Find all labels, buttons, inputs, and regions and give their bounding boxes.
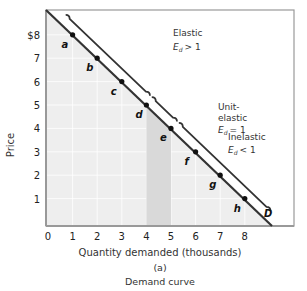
y-tick-6: 6 (34, 77, 40, 88)
y-tick-4: 4 (34, 123, 40, 134)
point-h (242, 196, 247, 201)
inelastic-eq: Ed< 1 (228, 145, 256, 156)
y-tick-1: 1 (34, 194, 40, 205)
x-tick-3: 3 (119, 231, 125, 242)
point-a (70, 32, 75, 37)
y-tick-2: 2 (34, 170, 40, 181)
y-tick-8: $8 (27, 30, 40, 41)
y-tick-3: 3 (34, 147, 40, 158)
unit-elastic-label-1: Unit- (218, 102, 240, 112)
x-tick-4: 4 (143, 231, 149, 242)
point-label-b: b (86, 62, 93, 73)
point-label-g: g (209, 179, 216, 190)
x-tick-8: 8 (242, 231, 248, 242)
chart-caption: Demand curve (125, 276, 195, 287)
x-axis-label: Quantity demanded (thousands) (79, 247, 242, 258)
x-tick-1: 1 (69, 231, 75, 242)
point-label-c: c (111, 86, 117, 97)
x-tick-5: 5 (168, 231, 174, 242)
x-tick-7: 7 (217, 231, 223, 242)
elastic-label: Elastic (173, 28, 202, 38)
point-b (95, 56, 100, 61)
point-label-e: e (160, 132, 167, 143)
y-tick-7: 7 (34, 53, 40, 64)
point-e (168, 126, 173, 131)
unit-elastic-label-2: elastic (218, 113, 247, 123)
curve-label-D: D (264, 208, 272, 219)
x-tick-0: 0 (45, 231, 51, 242)
point-label-h: h (234, 203, 241, 214)
demand-curve-chart: abcdefgh 0123456781234567$8 Elastic Ed> … (0, 0, 307, 291)
panel-label: (a) (153, 262, 166, 273)
point-d (144, 102, 149, 107)
point-label-a: a (62, 39, 69, 50)
inelastic-label: Inelastic (228, 132, 266, 142)
x-tick-2: 2 (94, 231, 100, 242)
point-label-d: d (135, 109, 143, 120)
point-c (119, 79, 124, 84)
point-f (193, 149, 198, 154)
y-tick-5: 5 (34, 100, 40, 111)
x-tick-6: 6 (192, 231, 198, 242)
point-g (218, 173, 223, 178)
y-axis-label: Price (5, 133, 16, 157)
elastic-eq: Ed> 1 (173, 42, 201, 53)
